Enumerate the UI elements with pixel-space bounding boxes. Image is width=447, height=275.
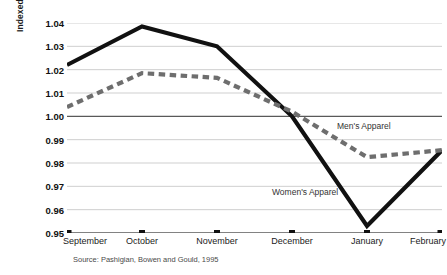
x-axis-tick-marker	[438, 230, 443, 233]
x-tick-label: February	[410, 236, 446, 246]
y-axis-title: Indexed clothing price	[15, 0, 29, 32]
x-tick-label: November	[196, 236, 238, 246]
x-axis-tick-marker	[289, 230, 295, 233]
x-tick-label: September	[63, 236, 107, 246]
x-tick-label: January	[351, 236, 383, 246]
y-tick-label: 1.03	[28, 41, 64, 52]
x-axis-tick-labels: SeptemberOctoberNovemberDecemberJanuaryF…	[0, 236, 447, 254]
source-note: Source: Pashigian, Bowen and Gould, 1995	[73, 255, 219, 264]
y-tick-label: 0.96	[28, 204, 64, 215]
x-tick-label: December	[271, 236, 313, 246]
y-tick-label: 0.99	[28, 134, 64, 145]
series-line-men-s-apparel	[67, 73, 442, 157]
series-label-mens-apparel: Men's Apparel	[337, 121, 391, 131]
x-tick-label: October	[126, 236, 158, 246]
y-tick-label: 1.00	[28, 111, 64, 122]
line-chart: Indexed clothing price 1.041.031.021.011…	[0, 0, 447, 275]
y-tick-label: 1.02	[28, 64, 64, 75]
y-tick-label: 1.04	[28, 18, 64, 29]
y-tick-label: 1.01	[28, 88, 64, 99]
y-tick-label: 0.98	[28, 158, 64, 169]
y-tick-label: 0.97	[28, 181, 64, 192]
x-axis-tick-marker	[214, 230, 220, 233]
y-axis-tick-labels: 1.041.031.021.011.000.990.980.970.960.95	[28, 0, 64, 275]
series-label-womens-apparel: Women's Apparel	[272, 187, 338, 197]
x-axis-tick-marker	[139, 230, 145, 233]
x-axis-tick-marker	[364, 230, 370, 233]
x-axis-tick-marker	[67, 230, 72, 233]
